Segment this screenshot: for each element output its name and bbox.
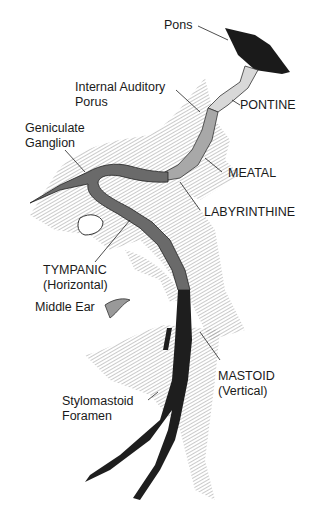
- pons: [225, 28, 290, 74]
- label-middle-ear: Middle Ear: [35, 300, 95, 315]
- label-stylomastoid-foramen: Stylomastoid Foramen: [62, 394, 134, 424]
- label-pons: Pons: [164, 18, 193, 33]
- label-mastoid: MASTOID (Vertical): [218, 369, 275, 399]
- middle-ear-shape: [105, 299, 130, 318]
- label-tympanic: TYMPANIC (Horizontal): [43, 263, 108, 293]
- label-labyrinthine: LABYRINTHINE: [204, 205, 295, 220]
- label-geniculate-ganglion: Geniculate Ganglion: [25, 121, 85, 151]
- label-internal-auditory-porus: Internal Auditory Porus: [75, 80, 165, 110]
- label-pontine: PONTINE: [240, 98, 296, 113]
- facial-nerve-diagram: [0, 0, 309, 524]
- label-meatal: MEATAL: [228, 166, 276, 181]
